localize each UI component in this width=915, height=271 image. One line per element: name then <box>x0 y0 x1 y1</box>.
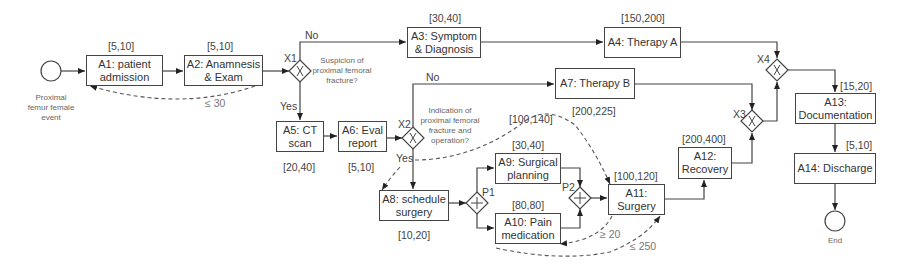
branch-x1-yes: Yes <box>280 100 297 112</box>
duration-a14: [5,10] <box>846 139 872 151</box>
duration-a3: [30,40] <box>429 12 461 24</box>
activity-a12[interactable]: A12: Recovery <box>678 147 732 179</box>
activity-a6[interactable]: A6: Eval report <box>338 121 387 152</box>
duration-a13: [15,20] <box>840 80 872 92</box>
constraint-label-a8-a11: [100,140] <box>509 113 553 125</box>
duration-a5: [20,40] <box>283 161 315 173</box>
activity-a13[interactable]: A13: Documentation <box>795 93 876 124</box>
end-event-label: End <box>815 236 855 246</box>
duration-a2: [5,10] <box>207 40 233 52</box>
activity-a4[interactable]: A4: Therapy A <box>604 27 681 58</box>
constraint-a1-a2 <box>90 86 255 99</box>
activity-a9[interactable]: A9: Surgical planning <box>495 153 561 184</box>
activity-a3[interactable]: A3: Symptom & Diagnosis <box>407 27 481 58</box>
end-event-icon <box>825 211 845 231</box>
constraint-a11-a8-end <box>382 167 400 190</box>
activity-a5[interactable]: A5: CT scan <box>276 121 324 152</box>
gateway-p2-label: P2 <box>562 181 575 193</box>
duration-a11: [100,120] <box>614 170 658 182</box>
activity-a14[interactable]: A14: Discharge <box>794 153 876 184</box>
gateway-p1-label: P1 <box>482 186 495 198</box>
constraint-label-a10-a11-min: ≥ 20 <box>600 228 620 240</box>
constraint-label-a1-a2: ≤ 30 <box>205 97 225 109</box>
gateway-x1-label: X1 <box>284 52 297 64</box>
gateway-x3-label: X3 <box>733 108 746 120</box>
duration-a7: [200,225] <box>572 105 616 117</box>
gateway-x2-label: X2 <box>398 118 411 130</box>
duration-a9: [30,40] <box>512 139 544 151</box>
branch-x2-yes: Yes <box>396 152 413 164</box>
activity-a7[interactable]: A7: Therapy B <box>555 68 635 99</box>
duration-a8: [10,20] <box>398 229 430 241</box>
gateway-x4-label: X4 <box>757 53 770 65</box>
duration-a1: [5,10] <box>108 40 134 52</box>
duration-a4: [150,200] <box>621 12 665 24</box>
start-event-label: Proximal femur female event <box>26 93 76 123</box>
branch-x1-no: No <box>305 29 318 41</box>
start-event-icon <box>41 61 61 81</box>
gateway-x2-question: Indication of proximal femoral fracture … <box>418 106 482 146</box>
duration-a6: [5,10] <box>348 161 374 173</box>
activity-a10[interactable]: A10: Pain medication <box>495 213 561 244</box>
activity-a8[interactable]: A8: schedule surgery <box>379 190 449 221</box>
activity-a2[interactable]: A2: Anamnesis & Exam <box>184 55 263 86</box>
constraint-label-a10-a11-max: ≤ 250 <box>630 240 656 252</box>
duration-a12: [200,400] <box>682 133 726 145</box>
activity-a1[interactable]: A1: patient admission <box>86 55 163 86</box>
gateway-x1-question: Suspicion of proximal femoral fracture? <box>310 56 374 86</box>
duration-a10: [80,80] <box>512 199 544 211</box>
activity-a11[interactable]: A11: Surgery <box>608 184 665 215</box>
branch-x2-no: No <box>426 71 439 83</box>
